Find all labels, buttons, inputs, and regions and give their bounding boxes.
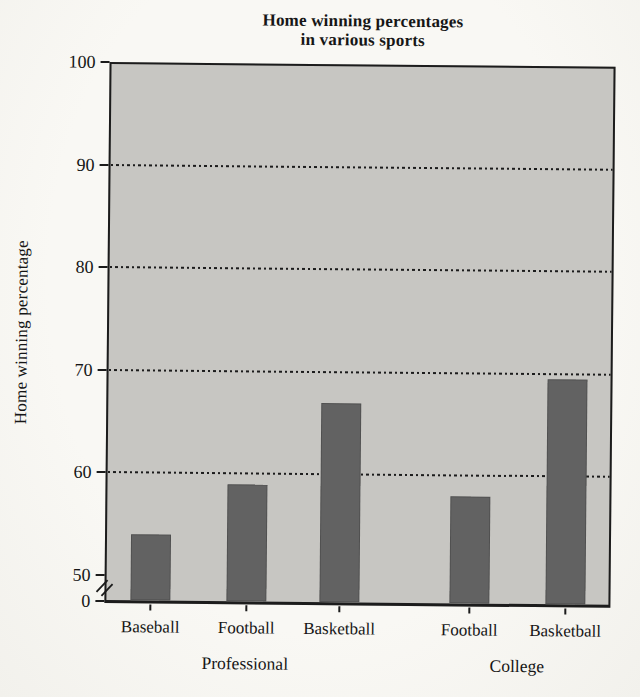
y-tick-70 [98,369,107,371]
gridline-90 [111,164,613,171]
y-tick-label-50: 50 [45,564,91,584]
y-tick-90 [100,164,109,166]
y-tick-label-60: 60 [46,462,92,482]
x-tick-0 [149,604,151,610]
x-tick-2 [338,606,340,612]
y-tick-60 [97,471,106,473]
x-tick-3 [468,607,470,613]
y-tick-0 [95,600,104,602]
bar-football-1 [226,484,267,602]
bar-basketball-4 [545,379,587,604]
y-tick-80 [99,266,108,268]
y-tick-label-70: 70 [47,359,93,379]
x-category-label-basketball-2: Basketball [284,619,394,640]
x-category-label-football-3: Football [414,620,524,641]
gridline-80 [110,266,612,273]
bar-baseball-0 [130,534,171,600]
bar-football-3 [449,496,490,603]
chart-title: Home winning percentages in various spor… [110,9,616,52]
bar-basketball-2 [319,403,361,603]
y-tick-label-100: 100 [49,51,95,71]
y-tick-label-0: 0 [44,590,90,610]
plot-area [104,62,615,608]
y-axis-break-icon [95,576,113,600]
x-tick-4 [564,608,566,614]
bar-chart: Home winning percentages in various spor… [0,0,640,697]
x-tick-1 [245,605,247,611]
y-tick-label-80: 80 [48,257,94,277]
y-tick-100 [101,61,110,63]
x-category-label-baseball-0: Baseball [95,617,205,638]
chart-title-line2: in various sports [110,28,616,52]
group-label-professional: Professional [175,653,315,674]
y-tick-label-90: 90 [48,154,94,174]
gridline-70 [109,369,611,376]
x-category-label-basketball-4: Basketball [510,621,620,642]
y-axis-title: Home winning percentage [11,240,33,424]
group-label-college: College [447,655,587,676]
